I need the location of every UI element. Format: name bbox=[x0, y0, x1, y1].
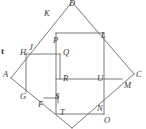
vertex-label-T: T bbox=[60, 108, 65, 117]
vertex-label-M: M bbox=[124, 81, 131, 90]
vertex-label-N: N bbox=[97, 104, 103, 113]
vertex-label-C: C bbox=[136, 70, 142, 79]
construction-lines-group bbox=[26, 54, 122, 103]
geometry-svg-canvas bbox=[0, 0, 146, 129]
vertex-label-U: U bbox=[97, 74, 103, 83]
vertex-label-Q: Q bbox=[63, 48, 69, 57]
stray-mark-t: t bbox=[1, 46, 4, 56]
segment-D-A bbox=[11, 2, 72, 78]
vertex-label-G: G bbox=[20, 92, 26, 101]
vertex-label-K: K bbox=[44, 9, 50, 18]
vertex-label-L: L bbox=[101, 31, 106, 40]
geometry-diagram: D K L P J H Q t A R U C M G S F T N O bbox=[0, 0, 146, 129]
vertex-label-F: F bbox=[38, 100, 43, 109]
vertex-label-J: J bbox=[29, 43, 33, 52]
vertex-label-S: S bbox=[55, 92, 59, 101]
vertex-label-R: R bbox=[63, 74, 68, 83]
vertex-label-H: H bbox=[20, 48, 26, 57]
vertex-label-D: D bbox=[69, 0, 75, 8]
vertex-label-O: O bbox=[104, 116, 110, 125]
vertex-label-P: P bbox=[53, 36, 58, 45]
outer-diamond-group bbox=[11, 2, 134, 128]
vertex-label-A: A bbox=[3, 70, 8, 79]
